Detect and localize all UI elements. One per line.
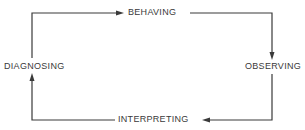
- arrowhead-up-icon: [30, 73, 35, 81]
- arrowhead-down-icon: [270, 52, 275, 60]
- node-diagnosing: DIAGNOSING: [4, 61, 65, 71]
- edge-diagnosing-behaving: [32, 13, 117, 58]
- edge-observing-interpreting: [208, 74, 272, 120]
- edge-interpreting-diagnosing: [32, 79, 115, 120]
- arrowhead-left-icon: [202, 118, 210, 123]
- node-observing: OBSERVING: [245, 61, 301, 71]
- arrowhead-right-icon: [116, 11, 124, 16]
- edge-behaving-observing: [190, 13, 272, 54]
- node-behaving: BEHAVING: [128, 7, 176, 17]
- node-interpreting: INTERPRETING: [118, 114, 189, 124]
